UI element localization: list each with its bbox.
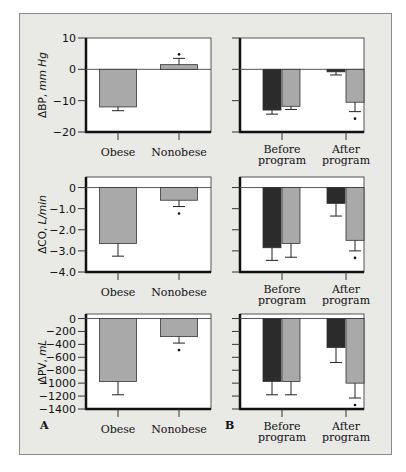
bar: [100, 319, 137, 382]
y-tick-label: 0: [69, 182, 76, 195]
significance-marker: [354, 117, 357, 120]
svg-text:program: program: [322, 431, 371, 444]
y-tick-label: 10: [62, 32, 76, 45]
bar: [346, 319, 364, 384]
x-label-obese: Obese: [101, 423, 136, 436]
panel-label-a: A: [39, 419, 49, 432]
bar: [100, 188, 137, 244]
bar: [327, 188, 345, 204]
chart-A3: 0−200−400−600−800−1000−1200−1400ΔPV, mLO…: [36, 313, 211, 436]
y-tick-label: 0: [69, 63, 76, 76]
y-tick-label: −200: [46, 325, 76, 338]
significance-marker: [354, 257, 357, 260]
bar: [282, 188, 300, 244]
bar: [327, 319, 345, 348]
panel-label-b: B: [225, 419, 234, 432]
y-axis-label: ΔPV, mL: [36, 340, 48, 384]
bar: [161, 319, 198, 337]
y-tick-label: −1400: [39, 403, 76, 416]
bar: [263, 319, 281, 382]
y-tick-label: −3.0: [49, 245, 76, 258]
significance-marker: [178, 212, 181, 215]
y-tick-label: −10: [53, 95, 76, 108]
y-tick-label: −1200: [39, 390, 76, 403]
bar: [327, 69, 345, 72]
significance-marker: [354, 404, 357, 407]
significance-marker: [178, 53, 181, 56]
bar: [346, 188, 364, 241]
chart-A2: 0−1.0−2.0−3.0−4.0ΔCO, L/minObeseNonobese: [36, 177, 211, 299]
svg-text:program: program: [258, 431, 307, 444]
chart-B2: BeforeprogramAfterprogram: [232, 177, 371, 307]
x-label-nonobese: Nonobese: [151, 423, 207, 436]
chart-B1: BeforeprogramAfterprogram: [232, 38, 371, 167]
svg-text:program: program: [258, 154, 307, 167]
y-tick-label: −800: [46, 364, 76, 377]
significance-marker: [178, 349, 181, 352]
y-tick-label: −1.0: [49, 203, 76, 216]
svg-text:program: program: [258, 294, 307, 307]
x-label-obese: Obese: [101, 286, 136, 299]
bar: [161, 188, 198, 201]
x-label-nonobese: Nonobese: [151, 286, 207, 299]
bar: [282, 69, 300, 106]
x-label-obese: Obese: [101, 146, 136, 159]
y-tick-label: −4.0: [49, 266, 76, 279]
bar: [263, 69, 281, 110]
y-tick-label: −20: [53, 126, 76, 139]
chart-A1: 100−10−20ΔBP, mm HgObeseNonobese: [36, 32, 211, 159]
y-tick-label: −400: [46, 338, 76, 351]
x-label-nonobese: Nonobese: [151, 146, 207, 159]
y-axis-label: ΔCO, L/min: [36, 195, 48, 254]
y-axis-label: ΔBP, mm Hg: [36, 52, 48, 118]
bar: [263, 188, 281, 248]
figure-canvas: 100−10−20ΔBP, mm HgObeseNonobeseBeforepr…: [0, 0, 406, 472]
y-tick-label: −600: [46, 351, 76, 364]
svg-text:program: program: [322, 294, 371, 307]
bar: [282, 319, 300, 382]
bar: [346, 69, 364, 102]
y-tick-label: −2.0: [49, 224, 76, 237]
bar: [161, 65, 198, 70]
plot-area: [240, 38, 364, 132]
chart-B3: BeforeprogramAfterprogram: [232, 314, 371, 444]
bar: [100, 69, 137, 107]
y-tick-label: 0: [69, 313, 76, 326]
svg-text:program: program: [322, 154, 371, 167]
